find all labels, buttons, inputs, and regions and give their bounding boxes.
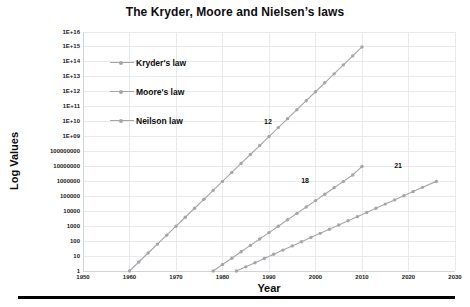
bottom-divider-rule [18, 296, 455, 299]
data-point[interactable] [356, 215, 359, 218]
data-point[interactable] [323, 81, 326, 84]
data-point[interactable] [230, 171, 233, 174]
series-annotation: 18 [301, 177, 309, 184]
data-point[interactable] [314, 199, 317, 202]
data-point[interactable] [184, 216, 187, 219]
data-point[interactable] [221, 180, 224, 183]
data-point[interactable] [286, 117, 289, 120]
data-point[interactable] [230, 256, 233, 259]
data-point[interactable] [291, 244, 294, 247]
data-point[interactable] [263, 257, 266, 260]
data-point[interactable] [156, 242, 159, 245]
legend-label: Neilson law [134, 116, 183, 126]
legend-marker-icon [110, 116, 134, 125]
data-point[interactable] [174, 224, 177, 227]
data-point[interactable] [202, 198, 205, 201]
data-point[interactable] [272, 253, 275, 256]
data-point[interactable] [346, 219, 349, 222]
chart-legend: Kryder's law Moore's law Neilson law [110, 48, 240, 135]
chart-container: The Kryder, Moore and Nielsen’s laws Log… [0, 0, 470, 307]
data-point[interactable] [365, 211, 368, 214]
series-annotation: 12 [264, 118, 272, 125]
data-point[interactable] [342, 63, 345, 66]
data-point[interactable] [239, 162, 242, 165]
legend-label: Kryder's law [134, 58, 186, 68]
legend-marker-icon [110, 87, 134, 96]
data-point[interactable] [128, 269, 131, 272]
data-point[interactable] [435, 180, 438, 183]
legend-label: Moore's law [134, 87, 184, 97]
data-point[interactable] [305, 99, 308, 102]
data-point[interactable] [360, 165, 363, 168]
data-point[interactable] [277, 224, 280, 227]
data-point[interactable] [267, 231, 270, 234]
series-annotation: 21 [394, 162, 402, 169]
data-point[interactable] [267, 135, 270, 138]
data-point[interactable] [314, 90, 317, 93]
data-point[interactable] [249, 244, 252, 247]
data-point[interactable] [332, 72, 335, 75]
data-point[interactable] [277, 126, 280, 129]
data-point[interactable] [342, 180, 345, 183]
data-point[interactable] [309, 236, 312, 239]
data-point[interactable] [212, 269, 215, 272]
data-point[interactable] [258, 144, 261, 147]
data-point[interactable] [295, 212, 298, 215]
data-point[interactable] [253, 261, 256, 264]
data-point[interactable] [332, 186, 335, 189]
data-point[interactable] [281, 248, 284, 251]
data-point[interactable] [244, 265, 247, 268]
data-point[interactable] [146, 251, 149, 254]
data-point[interactable] [337, 223, 340, 226]
data-point[interactable] [402, 194, 405, 197]
legend-item-moores-law[interactable]: Moore's law [110, 77, 240, 106]
data-point[interactable] [137, 260, 140, 263]
data-point[interactable] [212, 189, 215, 192]
data-point[interactable] [318, 232, 321, 235]
data-point[interactable] [360, 45, 363, 48]
data-point[interactable] [305, 205, 308, 208]
data-point[interactable] [286, 218, 289, 221]
data-point[interactable] [351, 54, 354, 57]
data-point[interactable] [411, 190, 414, 193]
data-point[interactable] [351, 173, 354, 176]
legend-marker-icon [110, 58, 134, 67]
data-point[interactable] [374, 207, 377, 210]
data-point[interactable] [300, 240, 303, 243]
data-point[interactable] [239, 250, 242, 253]
legend-item-neilson-law[interactable]: Neilson law [110, 106, 240, 135]
data-point[interactable] [295, 108, 298, 111]
data-point[interactable] [165, 233, 168, 236]
legend-item-kryders-law[interactable]: Kryder's law [110, 48, 240, 77]
data-point[interactable] [328, 227, 331, 230]
data-point[interactable] [421, 186, 424, 189]
data-point[interactable] [193, 207, 196, 210]
data-point[interactable] [393, 198, 396, 201]
data-point[interactable] [384, 202, 387, 205]
data-point[interactable] [235, 269, 238, 272]
plot-area [0, 0, 470, 307]
data-point[interactable] [258, 237, 261, 240]
data-point[interactable] [221, 263, 224, 266]
data-point[interactable] [249, 153, 252, 156]
data-point[interactable] [323, 192, 326, 195]
